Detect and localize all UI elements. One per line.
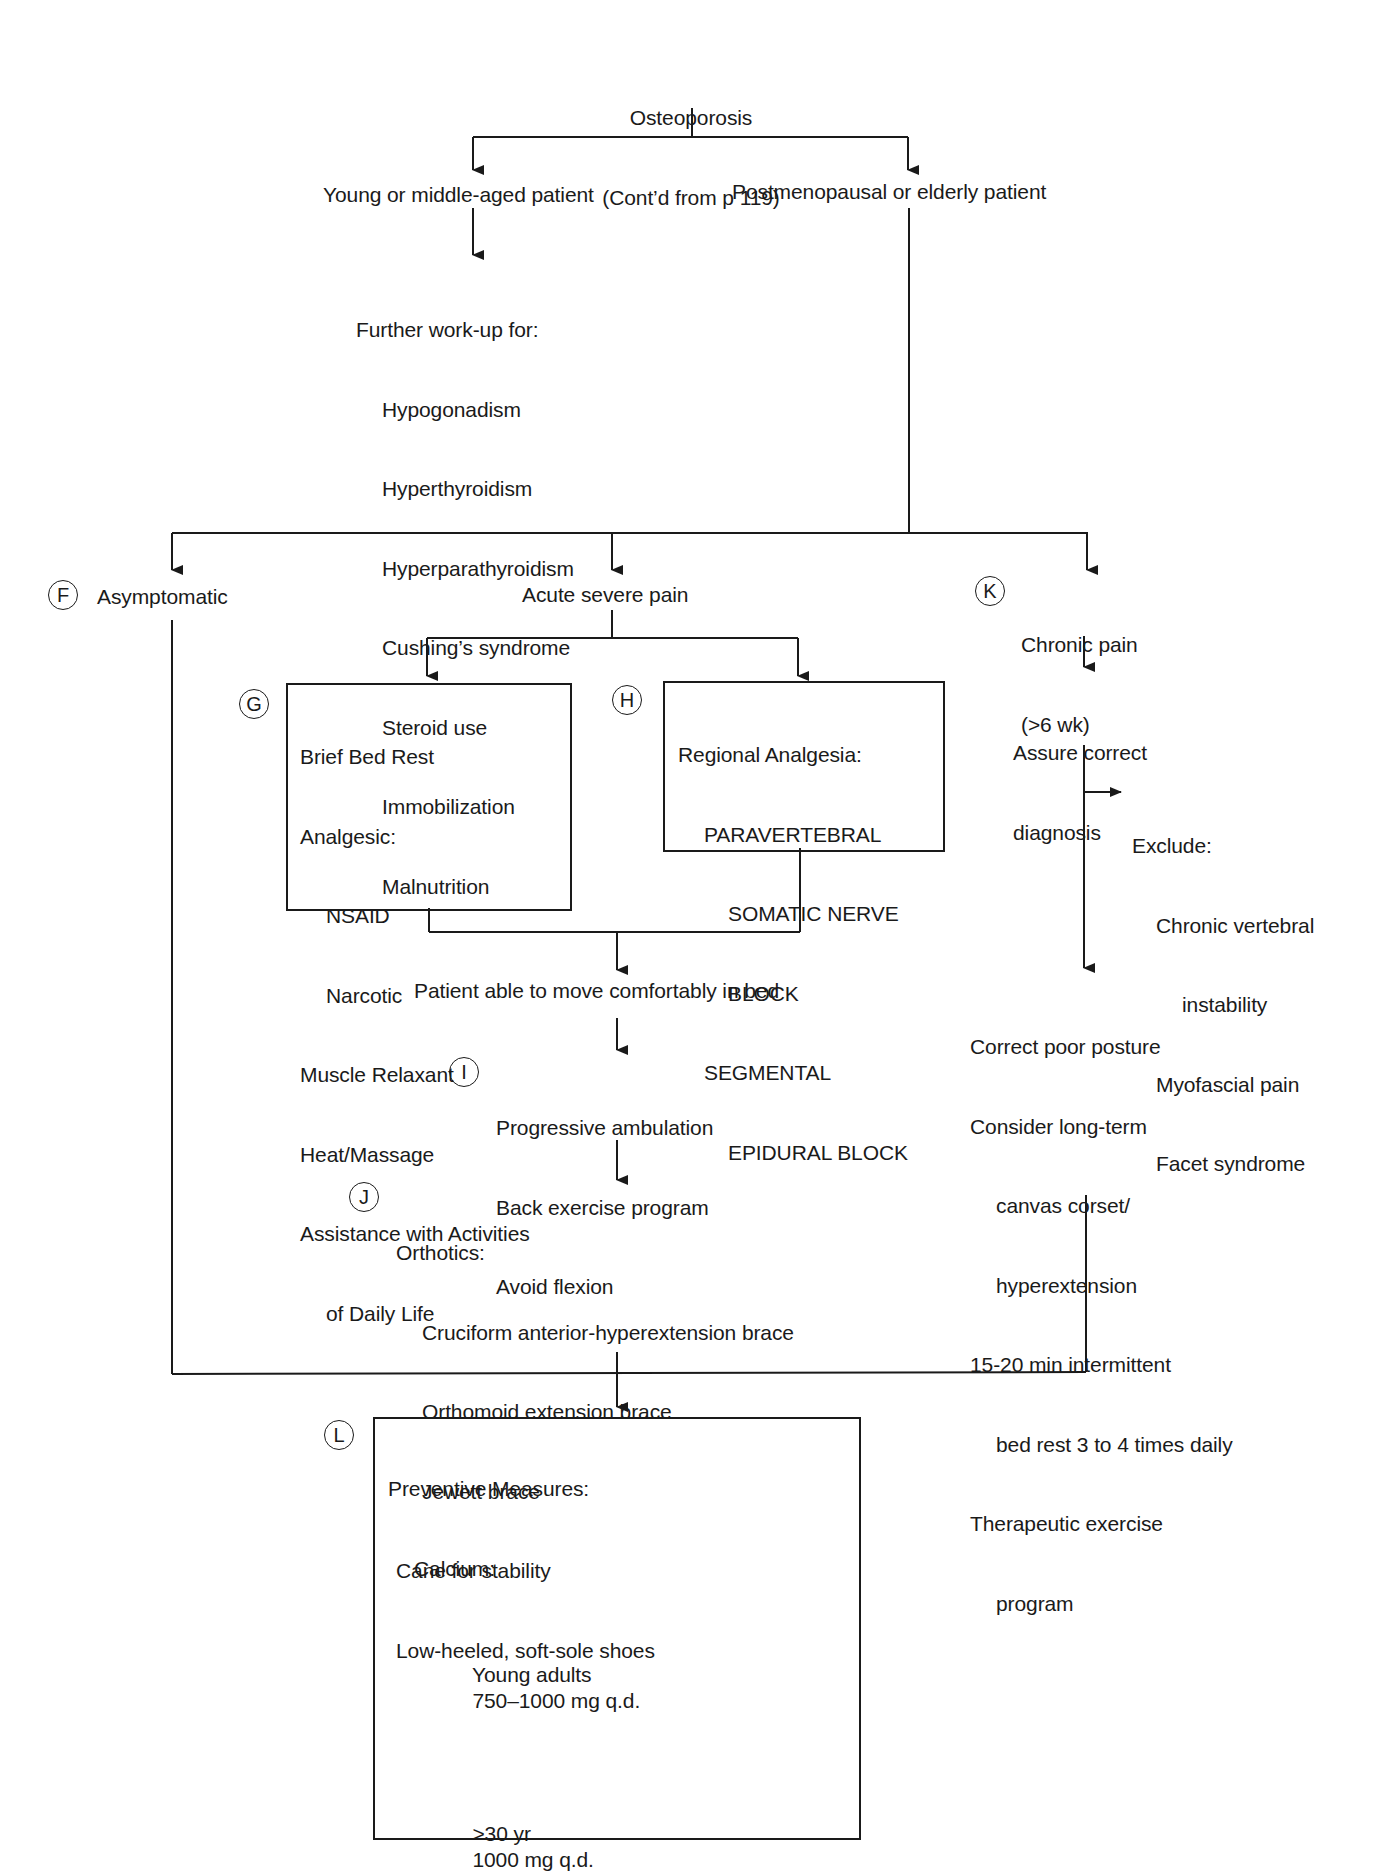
workup-item: Hyperparathyroidism [356, 556, 574, 583]
chronic-mgmt-item: 15-20 min intermittent [970, 1352, 1233, 1379]
root-title: Osteoporosis [560, 105, 822, 132]
step-badge-l: L [324, 1420, 354, 1450]
step-badge-f: F [48, 580, 78, 610]
treatment-item: Analgesic: [300, 824, 530, 851]
preventive-heading: Preventive Measures: [388, 1476, 653, 1503]
assure-line: diagnosis [1013, 820, 1147, 847]
chronic-mgmt-item: Therapeutic exercise [970, 1511, 1233, 1538]
workup-item: Cushing’s syndrome [356, 635, 574, 662]
analgesia-item: Regional Analgesia: [678, 742, 908, 769]
calcium-heading: Calcium: [388, 1556, 653, 1583]
dose-label: >30 yr [472, 1822, 530, 1845]
dose-value: 750–1000 mg q.d. [472, 1689, 640, 1712]
elderly-patient-node: Postmenopausal or elderly patient [732, 179, 1046, 206]
assure-line: Assure correct [1013, 740, 1147, 767]
chronic-mgmt-item: canvas corset/ [970, 1193, 1233, 1220]
treatment-item: NSAID [300, 903, 530, 930]
chronic-pain-label: Chronic pain [1021, 632, 1138, 659]
step-badge-g: G [239, 689, 269, 719]
assure-diagnosis-node: Assure correct diagnosis [1013, 687, 1147, 899]
dose-value: 1000 mg q.d. [472, 1848, 593, 1871]
chronic-mgmt-item: hyperextension [970, 1273, 1233, 1300]
osteoporosis-flowchart: Osteoporosis (Cont’d from p 119) Young o… [0, 0, 1380, 1874]
treatment-item: Brief Bed Rest [300, 744, 530, 771]
chronic-mgmt-item: Correct poor posture [970, 1034, 1233, 1061]
chronic-mgmt-item: Consider long-term [970, 1114, 1233, 1141]
ambulation-item: Progressive ambulation [496, 1115, 713, 1142]
workup-heading: Further work-up for: [356, 317, 574, 344]
asymptomatic-node: Asymptomatic [97, 584, 228, 611]
root-node: Osteoporosis (Cont’d from p 119) [560, 52, 822, 264]
step-badge-k: K [975, 576, 1005, 606]
step-badge-i: I [449, 1057, 479, 1087]
analgesia-item: PARAVERTEBRAL [678, 822, 908, 849]
calcium-row: Young adults 750–1000 mg q.d. [388, 1635, 653, 1741]
acute-pain-node: Acute severe pain [522, 582, 688, 609]
brace-item: Cruciform anterior-hyperextension brace [396, 1320, 794, 1347]
step-badge-h: H [612, 685, 642, 715]
step-badge-j: J [349, 1182, 379, 1212]
chronic-mgmt-item: bed rest 3 to 4 times daily [970, 1432, 1233, 1459]
orthotics-heading: Orthotics: [396, 1240, 794, 1267]
chronic-management-node: Correct poor posture Consider long-term … [970, 981, 1233, 1670]
dose-label: Young adults [472, 1663, 591, 1686]
exclude-item: Chronic vertebral [1132, 913, 1314, 940]
workup-item: Hypogonadism [356, 397, 574, 424]
exclude-heading: Exclude: [1132, 833, 1314, 860]
preventive-measures-list: Preventive Measures: Calcium: Young adul… [388, 1423, 653, 1874]
workup-item: Hyperthyroidism [356, 476, 574, 503]
chronic-mgmt-item: program [970, 1591, 1233, 1618]
comfortable-in-bed-node: Patient able to move comfortably in bed [414, 978, 779, 1005]
calcium-row: >30 yr 1000 mg q.d. [388, 1794, 653, 1874]
analgesia-item: SOMATIC NERVE [678, 901, 908, 928]
young-patient-node: Young or middle-aged patient [323, 182, 594, 209]
